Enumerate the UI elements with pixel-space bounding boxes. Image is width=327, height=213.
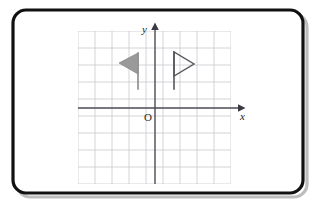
y-axis-label: y: [141, 23, 147, 35]
frame-fill: [13, 10, 303, 193]
figure-container: x y O: [0, 0, 327, 213]
x-axis-label: x: [239, 110, 245, 122]
coordinate-figure: x y O: [0, 0, 327, 213]
origin-label: O: [144, 111, 152, 123]
